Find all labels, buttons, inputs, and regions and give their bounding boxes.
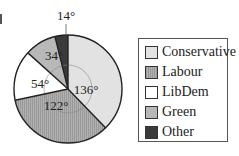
legend-label: Green <box>162 104 196 120</box>
slice-label-green: 34° <box>45 48 63 63</box>
swatch-other <box>145 126 158 139</box>
legend-label: Other <box>162 124 194 140</box>
legend-label: LibDem <box>162 84 209 100</box>
legend-item-conservative: Conservative <box>145 44 236 60</box>
legend-label: Conservative <box>162 44 236 60</box>
legend-item-libdem: LibDem <box>145 84 209 100</box>
slice-label-conservative: 136° <box>74 82 99 97</box>
slice-label-other: 14° <box>57 8 75 23</box>
swatch-labour <box>145 66 158 79</box>
legend: Conservative Labour LibDem Green Other <box>138 38 228 142</box>
swatch-libdem <box>145 86 158 99</box>
swatch-green <box>145 106 158 119</box>
swatch-conservative <box>145 46 158 59</box>
slice-label-libdem: 54° <box>31 76 49 91</box>
legend-label: Labour <box>162 64 202 80</box>
legend-item-green: Green <box>145 104 196 120</box>
legend-item-labour: Labour <box>145 64 202 80</box>
slice-label-labour: 122° <box>44 98 69 113</box>
legend-item-other: Other <box>145 124 194 140</box>
